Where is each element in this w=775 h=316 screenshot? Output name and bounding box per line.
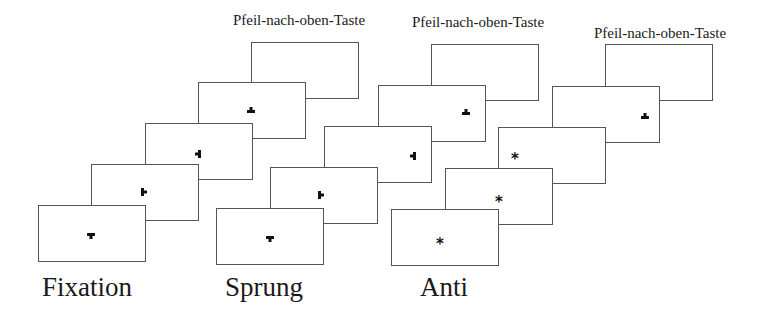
t-up-marker-icon <box>245 102 257 114</box>
key-press-label: Pfeil-nach-oben-Taste <box>594 26 726 41</box>
group-label-sprung: Sprung <box>225 274 303 301</box>
group-label-fixation: Fixation <box>42 274 132 301</box>
t-down-marker-icon <box>264 231 276 243</box>
group-label-anti: Anti <box>420 274 468 301</box>
t-left-marker-icon <box>192 146 204 158</box>
asterisk-stimulus-icon: * <box>436 237 444 252</box>
t-right-marker-icon <box>315 187 327 199</box>
asterisk-stimulus-icon: * <box>511 152 519 167</box>
t-up-marker-icon <box>639 108 651 120</box>
t-up-marker-icon <box>460 104 472 116</box>
t-down-marker-icon <box>85 228 97 240</box>
asterisk-stimulus-icon: * <box>495 195 503 210</box>
t-left-marker-icon <box>407 148 419 160</box>
t-right-marker-icon <box>138 184 150 196</box>
key-press-label: Pfeil-nach-oben-Taste <box>412 15 544 30</box>
stimulus-screen-1 <box>391 209 499 266</box>
key-press-label: Pfeil-nach-oben-Taste <box>233 13 365 28</box>
